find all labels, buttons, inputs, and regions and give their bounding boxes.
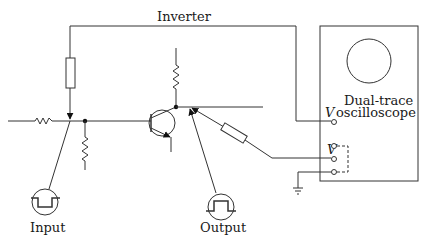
- inverter-label: Inverter: [157, 9, 212, 24]
- input-square-wave-generator: [31, 189, 60, 215]
- input-label: Input: [30, 220, 66, 235]
- output-square-wave: [206, 194, 236, 220]
- feedback-resistor: [66, 26, 75, 119]
- ground-link-dashed: [337, 146, 348, 172]
- input-series-resistor: [35, 118, 52, 124]
- ground: [293, 172, 331, 194]
- input-probe-line: [49, 121, 70, 189]
- channel2-terminal: [332, 157, 337, 162]
- base-bias-resistor: [82, 119, 88, 170]
- channel2-ground-terminal: [332, 170, 337, 175]
- output-probe-line: [190, 109, 216, 193]
- collector-load-resistor: [173, 48, 179, 109]
- probe-resistor: [192, 108, 331, 158]
- scope-title-line2: oscilloscope: [336, 105, 416, 120]
- dual-trace-oscilloscope: Dual-trace V oscilloscope V: [320, 26, 418, 181]
- channel1-ground-terminal: [332, 144, 337, 149]
- channel1-terminal: [332, 120, 337, 125]
- inverter-circuit-diagram: Inverter Input: [0, 0, 429, 242]
- npn-transistor: [149, 107, 176, 152]
- scope-screen: [347, 39, 391, 83]
- input-line: [8, 118, 151, 124]
- channel1-v-label: V: [325, 105, 336, 120]
- output-label: Output: [200, 220, 247, 235]
